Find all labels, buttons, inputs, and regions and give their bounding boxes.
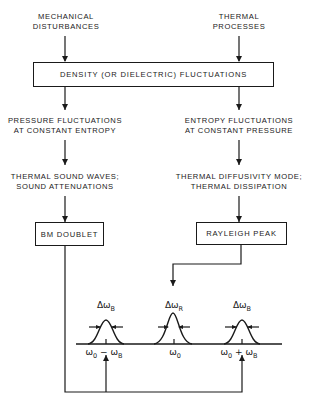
position-symbol: ω [86,347,94,357]
position-symbol: ω [169,347,177,357]
source-thermal-line1: THERMAL [213,12,266,22]
source-mechanical-line1: MECHANICAL [33,12,100,22]
entropy-fluctuations-line2: AT CONSTANT PRESSURE [185,126,293,136]
sound-waves-line1: THERMAL SOUND WAVES; [11,172,119,182]
source-mechanical-line2: DISTURBANCES [33,22,100,32]
entropy-fluctuations-line1: ENTROPY FLUCTUATIONS [185,116,293,126]
width-label-brillouin-antistokes: ΔωB [233,300,251,313]
source-thermal-line2: PROCESSES [213,22,266,32]
sound-waves-line2: SOUND ATTENUATIONS [11,182,119,192]
density-fluctuations-label: DENSITY (OR DIELECTRIC) FLUCTUATIONS [60,70,247,79]
pressure-fluctuations-line2: AT CONSTANT ENTROPY [8,126,122,136]
width-subscript: B [111,305,115,313]
position-label-brillouin-stokes: ω0 − ωB [86,347,123,360]
bm-doublet-label: BM DOUBLET [41,230,98,239]
pressure-fluctuations-line1: PRESSURE FLUCTUATIONS [8,116,122,126]
position-suffix-subscript: B [118,352,122,360]
entropy-fluctuations-label: ENTROPY FLUCTUATIONS AT CONSTANT PRESSUR… [185,116,293,136]
diagram-connectors [0,0,310,400]
rayleigh-peak-label: RAYLEIGH PEAK [206,229,277,238]
position-suffix-subscript: B [253,352,257,360]
width-subscript: R [179,305,184,313]
position-suffix: − ω [97,347,118,357]
source-thermal: THERMAL PROCESSES [213,12,266,32]
width-subscript: B [247,305,251,313]
width-label-brillouin-stokes: ΔωB [97,300,115,313]
bm-doublet-box: BM DOUBLET [35,222,104,246]
thermal-diffusivity-label: THERMAL DIFFUSIVITY MODE; THERMAL DISSIP… [176,172,302,192]
position-label-rayleigh: ω0 [169,347,181,360]
width-symbol: Δω [165,300,179,310]
source-mechanical: MECHANICAL DISTURBANCES [33,12,100,32]
position-suffix: + ω [232,347,253,357]
width-label-rayleigh: ΔωR [165,300,183,313]
pressure-fluctuations-label: PRESSURE FLUCTUATIONS AT CONSTANT ENTROP… [8,116,122,136]
rayleigh-peak-box: RAYLEIGH PEAK [196,222,287,245]
thermal-diffusivity-line1: THERMAL DIFFUSIVITY MODE; [176,172,302,182]
position-symbol: ω [221,347,229,357]
sound-waves-label: THERMAL SOUND WAVES; SOUND ATTENUATIONS [11,172,119,192]
width-symbol: Δω [97,300,111,310]
density-fluctuations-box: DENSITY (OR DIELECTRIC) FLUCTUATIONS [33,62,274,87]
peak-rayleigh [154,313,192,344]
position-label-brillouin-antistokes: ω0 + ωB [221,347,258,360]
position-subscript: 0 [177,352,181,360]
thermal-diffusivity-line2: THERMAL DISSIPATION [176,182,302,192]
width-symbol: Δω [233,300,247,310]
